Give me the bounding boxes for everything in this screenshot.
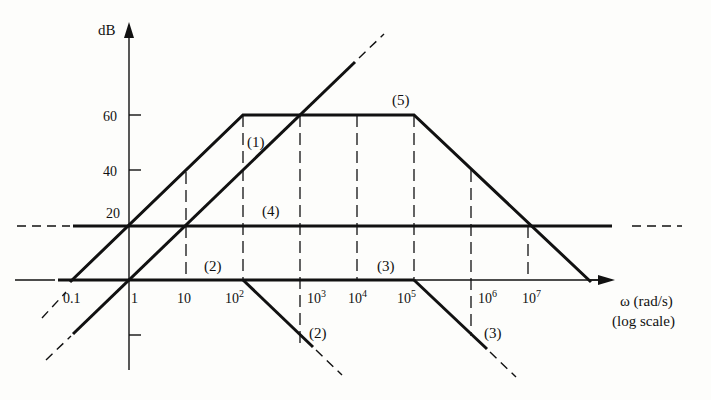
curve-5-label: (5): [392, 92, 410, 109]
x-tick-10e7: 107: [522, 288, 541, 306]
x-tick-10: 10: [177, 291, 191, 306]
y-tick-label-40: 40: [103, 164, 117, 179]
x-tick-10e2: 102: [225, 288, 244, 306]
x-axis-arrow-icon: [598, 275, 615, 285]
y-tick-label-20: 20: [106, 206, 120, 221]
x-tick-1: 1: [131, 291, 138, 306]
y-axis-arrow-icon: [124, 22, 134, 38]
curve-5-composite: [42, 115, 591, 318]
x-tick-10e5: 105: [397, 288, 416, 306]
y-tick-label-60: 60: [103, 109, 117, 124]
x-tick-labels: 0.1 1 10 102 103 104 105 106 107: [63, 288, 541, 306]
curve-2-label-bottom: (2): [309, 325, 327, 342]
x-tick-10e4: 104: [348, 288, 367, 306]
vertical-guides: [186, 115, 528, 345]
curve-1: [46, 34, 384, 360]
curve-4-label: (4): [262, 203, 280, 220]
curve-3-label-top: (3): [377, 258, 395, 275]
y-axis-label: dB: [98, 22, 116, 38]
curve-1-label: (1): [247, 134, 265, 151]
x-tick-10e3: 103: [307, 288, 326, 306]
x-axis-label: ω (rad/s): [620, 293, 673, 310]
x-tick-10e6: 106: [478, 288, 497, 306]
curve-2-label-top: (2): [204, 258, 222, 275]
x-axis-scale-note: (log scale): [612, 313, 675, 330]
curve-2-rolloff: [243, 280, 342, 375]
curve-3-label-bottom: (3): [484, 325, 502, 342]
bode-plot: dB 60 40 20 0.1 1 10 102 103 104 105 106…: [0, 0, 711, 400]
